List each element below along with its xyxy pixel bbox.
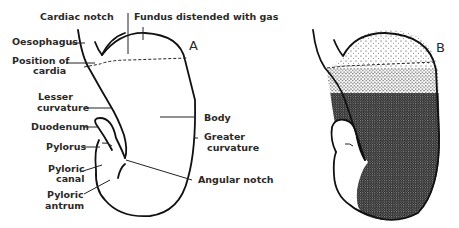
- label-greater-curvature: curvature: [207, 142, 259, 153]
- label-cardiac-notch: Cardiac notch: [40, 11, 114, 22]
- label-fundus: Fundus distended with gas: [134, 11, 279, 22]
- panel-b: B: [313, 28, 445, 228]
- label-cardia: cardia: [33, 65, 66, 76]
- label-pyloric-antrum-2: antrum: [45, 200, 84, 211]
- lesser-curvature-outline: [78, 30, 126, 158]
- panel-a: Cardiac notch Fundus distended with gas …: [12, 11, 279, 216]
- panel-label-a: A: [189, 38, 198, 53]
- label-pyloric-antrum-1: Pyloric: [47, 189, 84, 200]
- label-duodenum: Duodenum: [31, 121, 89, 132]
- label-body: Body: [204, 112, 232, 123]
- label-angular-notch: Angular notch: [198, 174, 274, 185]
- label-lesser: Lesser: [38, 91, 73, 102]
- panel-label-b: B: [436, 40, 445, 55]
- pyloric-curve: [118, 164, 125, 178]
- label-oesophagus: Oesophagus: [12, 36, 78, 47]
- stomach-diagram: Cardiac notch Fundus distended with gas …: [0, 0, 459, 228]
- label-pyloric-canal-2: canal: [56, 173, 84, 184]
- label-greater: Greater: [204, 131, 245, 142]
- cardiac-notch-outline: [95, 33, 125, 55]
- angular-notch-leader: [126, 160, 192, 180]
- label-lesser-curvature: curvature: [37, 102, 89, 113]
- cardia-dashed-line: [84, 58, 187, 67]
- label-pylorus: Pylorus: [46, 141, 87, 152]
